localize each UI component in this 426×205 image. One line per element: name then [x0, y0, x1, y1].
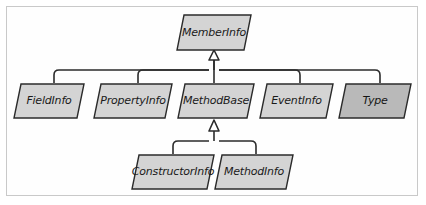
class-node-constructorinfo[interactable]: ConstructorInfo [131, 154, 215, 190]
edge-group-methodbase [173, 130, 256, 154]
class-node-label: FieldInfo [26, 95, 71, 107]
class-node-memberinfo[interactable]: MemberInfo [176, 14, 252, 51]
class-node-eventinfo[interactable]: EventInfo [259, 83, 334, 119]
class-node-propertyinfo[interactable]: PropertyInfo [93, 83, 173, 119]
class-node-label: EventInfo [271, 95, 322, 107]
edge-propertyinfo-memberinfo [138, 70, 209, 83]
edge-fieldinfo-memberinfo [54, 70, 209, 83]
class-node-label: ConstructorInfo [132, 166, 214, 178]
edge-methodinfo-methodbase [219, 141, 256, 154]
generalization-arrowhead-memberinfo [209, 50, 219, 60]
class-node-label: MethodInfo [224, 166, 284, 178]
edge-group-memberinfo [54, 59, 380, 83]
class-node-label: Type [362, 95, 387, 107]
class-node-label: PropertyInfo [100, 95, 165, 107]
class-node-fieldinfo[interactable]: FieldInfo [13, 83, 85, 119]
class-node-methodbase[interactable]: MethodBase [177, 83, 255, 119]
class-node-type[interactable]: Type [338, 83, 412, 119]
class-node-methodinfo[interactable]: MethodInfo [214, 154, 294, 190]
class-node-label: MemberInfo [182, 27, 246, 39]
diagram-figure: MemberInfo FieldInfo PropertyInfo Method… [0, 0, 426, 205]
class-node-label: MethodBase [183, 95, 249, 107]
generalization-arrowhead-methodbase [209, 120, 219, 131]
edge-eventinfo-memberinfo [219, 70, 300, 83]
edge-constructorinfo-methodbase [173, 141, 209, 154]
